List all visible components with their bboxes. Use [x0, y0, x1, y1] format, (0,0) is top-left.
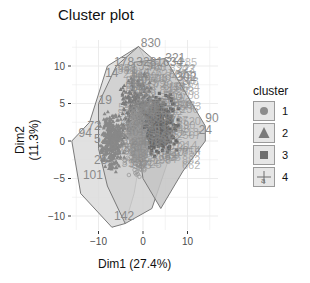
x-axis-label: Dim1 (27.4%): [98, 257, 171, 271]
svg-text:214: 214: [179, 139, 197, 151]
point-label: 302: [176, 70, 196, 84]
svg-text:371: 371: [140, 124, 158, 136]
svg-text:10: 10: [54, 61, 66, 72]
svg-text:673: 673: [125, 78, 143, 90]
legend-label: 1: [282, 105, 288, 117]
svg-text:0: 0: [140, 236, 146, 247]
point-label: 321: [165, 51, 185, 65]
svg-text:597: 597: [140, 104, 158, 116]
svg-text:473: 473: [183, 100, 201, 112]
point-label: 19: [99, 93, 113, 107]
legend-key-1: [253, 101, 275, 121]
legend-label: 2: [282, 127, 288, 139]
point-label: 14: [105, 66, 119, 80]
circle-icon: [254, 102, 274, 120]
legend-key-2: [253, 123, 275, 143]
svg-text:31: 31: [122, 157, 134, 169]
point-label: 94: [78, 126, 92, 140]
y-axis-label: Dim2 (11.3%): [13, 105, 41, 175]
svg-text:5: 5: [59, 98, 65, 109]
point-label: 830: [141, 36, 161, 50]
svg-text:727: 727: [156, 67, 174, 79]
square-icon: [254, 146, 274, 164]
point-label: 78: [103, 138, 117, 152]
svg-text:−5: −5: [54, 173, 66, 184]
svg-text:−10: −10: [48, 211, 65, 222]
point-label: 24: [199, 123, 213, 137]
legend-key-3: [253, 145, 275, 165]
svg-text:573: 573: [121, 141, 139, 153]
triangle-icon: [254, 124, 274, 142]
point-label: 25: [94, 153, 108, 167]
legend-key-4: a: [253, 167, 275, 187]
legend-label: 3: [282, 149, 288, 161]
point-label: 142: [114, 209, 134, 223]
svg-text:862: 862: [158, 150, 176, 162]
svg-text:38: 38: [169, 105, 181, 117]
point-label: 328: [136, 55, 156, 69]
svg-text:10: 10: [182, 236, 194, 247]
svg-text:0: 0: [59, 136, 65, 147]
legend-label: 4: [282, 171, 288, 183]
svg-text:a: a: [261, 176, 266, 185]
legend-title: cluster: [253, 84, 288, 98]
svg-text:812: 812: [141, 156, 159, 168]
cross-dot-icon: a: [254, 168, 274, 186]
point-label: 101: [83, 168, 103, 182]
svg-text:−10: −10: [90, 236, 107, 247]
